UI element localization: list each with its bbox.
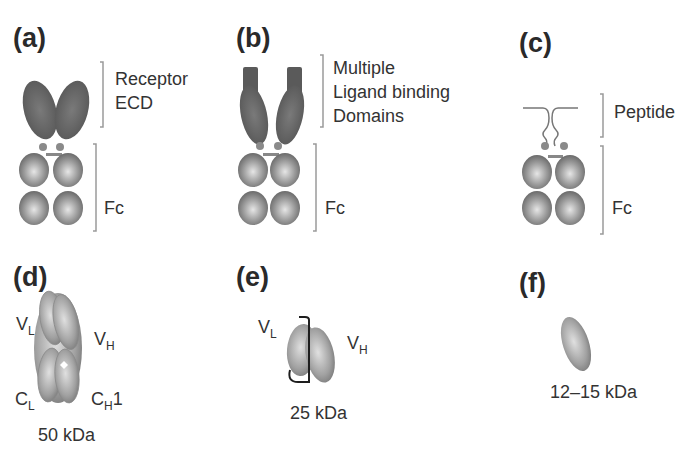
panel-f-single-domain-antibody bbox=[555, 313, 597, 374]
vl-label-e: VL bbox=[258, 316, 277, 340]
panel-e-scfv-fragment bbox=[285, 317, 340, 385]
ch1-label-d: CH1 bbox=[91, 388, 123, 412]
panel-label-f: (f) bbox=[519, 268, 546, 299]
panel-b-multi-ligand-fc-fusion bbox=[235, 55, 323, 231]
panel-d-fab-fragment bbox=[34, 290, 84, 404]
vh-label-d: VH bbox=[94, 328, 115, 352]
panel-label-d: (d) bbox=[13, 262, 47, 293]
ecd-label: ECD bbox=[115, 92, 153, 114]
panel-label-b: (b) bbox=[236, 23, 270, 54]
mass-label-e: 25 kDa bbox=[290, 402, 347, 424]
fc-label-c: Fc bbox=[612, 197, 632, 219]
fc-label-b: Fc bbox=[325, 197, 345, 219]
mass-label-d: 50 kDa bbox=[38, 424, 95, 446]
receptor-label: Receptor bbox=[115, 68, 188, 90]
peptide-label: Peptide bbox=[614, 101, 675, 123]
vl-label-d: VL bbox=[16, 313, 35, 337]
panel-label-a: (a) bbox=[13, 23, 46, 54]
cl-label-d: CL bbox=[15, 388, 35, 412]
vh-label-e: VH bbox=[347, 332, 368, 356]
fc-label-a: Fc bbox=[104, 197, 124, 219]
panel-c-peptide-fc-fusion bbox=[522, 94, 603, 234]
panel-label-c: (c) bbox=[519, 28, 552, 59]
multiple-label: Multiple bbox=[333, 57, 395, 79]
panel-a-receptor-fc-fusion bbox=[17, 62, 103, 231]
mass-label-f: 12–15 kDa bbox=[550, 381, 637, 403]
ligand-binding-label: Ligand binding bbox=[333, 81, 450, 103]
domains-label: Domains bbox=[333, 105, 404, 127]
panel-label-e: (e) bbox=[236, 262, 269, 293]
